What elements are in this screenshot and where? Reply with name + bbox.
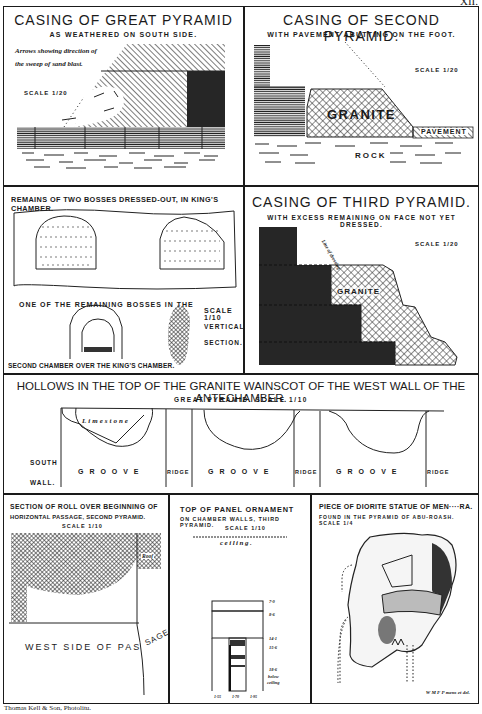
dim-bottom-3: 1·95: [250, 694, 257, 699]
panel-diorite-statue: PIECE OF DIORITE STATUE OF MEN····RA. FO…: [312, 495, 478, 702]
section-line-2: SECTION.: [204, 339, 243, 346]
panel-hollows: HOLLOWS IN THE TOP OF THE GRANITE WAINSC…: [4, 375, 478, 493]
segment-ridge-3: RIDGE: [427, 469, 449, 475]
scale-label: SCALE 1/10: [204, 307, 243, 321]
dim-bottom-2: 1·70: [232, 694, 239, 699]
segment-groove-2: G R O O V E: [208, 468, 270, 475]
caption-top: ONE OF THE REMAINING BOSSES IN THE: [19, 301, 194, 308]
dim-5: 18·6: [269, 667, 277, 672]
label-granite: GRANITE: [327, 107, 396, 122]
hollows-drawing: [4, 375, 478, 493]
dim-4: 15·6: [269, 645, 277, 650]
dim-3: 14·1: [269, 636, 277, 641]
segment-ridge-2: RIDGE: [295, 469, 317, 475]
panel-roll-section: SECTION OF ROLL OVER BEGINNING OF HORIZO…: [4, 495, 168, 702]
segment-groove-1: G R O O V E: [78, 468, 140, 475]
section-line-1: VERTICAL: [204, 323, 245, 330]
south-wall-line-1: SOUTH: [30, 459, 58, 466]
dim-ceiling: ceiling: [267, 680, 280, 685]
segment-groove-3: G R O O V E: [336, 468, 398, 475]
caption-bottom: SECOND CHAMBER OVER THE KING'S CHAMBER.: [8, 362, 174, 369]
panel-third-pyramid-casing: CASING OF THIRD PYRAMID. WITH EXCESS REM…: [245, 187, 478, 373]
segment-ridge-1: RIDGE: [167, 469, 189, 475]
dim-1: 7·0: [269, 599, 275, 604]
dim-below: below: [268, 674, 279, 679]
label-west-side: WEST SIDE OF PAS: [25, 642, 141, 652]
dim-bottom-1: 1·55: [214, 694, 221, 699]
third-pyramid-casing-drawing: [245, 187, 478, 373]
label-roof: Roof: [141, 553, 154, 559]
great-pyramid-casing-drawing: [4, 7, 243, 185]
label-granite: GRANITE: [337, 287, 380, 296]
diorite-statue-drawing: [312, 495, 478, 702]
engraver-credit: Thomas Kell & Son, Photolitu.: [4, 704, 91, 712]
label-ceiling: ceiling.: [220, 539, 253, 547]
panel-bosses: REMAINS OF TWO BOSSES DRESSED-OUT, IN KI…: [4, 187, 243, 373]
signature: W M F P mens et del.: [426, 690, 470, 695]
dim-2: 8·6: [269, 612, 275, 617]
panel-great-pyramid-casing: CASING OF GREAT PYRAMID AS WEATHERED ON …: [4, 7, 243, 185]
label-pavement: PAVEMENT: [420, 128, 468, 135]
panel-ornament: TOP OF PANEL ORNAMENT ON CHAMBER WALLS, …: [170, 495, 310, 702]
ornament-drawing: [170, 495, 310, 702]
panel-second-pyramid-casing: CASING OF SECOND PYRAMID. WITH PAVEMENT …: [245, 7, 478, 185]
south-wall-line-2: WALL.: [30, 479, 55, 486]
roll-section-drawing: [4, 495, 168, 702]
label-limestone: Limestone: [82, 417, 130, 425]
label-rock: ROCK: [352, 151, 390, 160]
